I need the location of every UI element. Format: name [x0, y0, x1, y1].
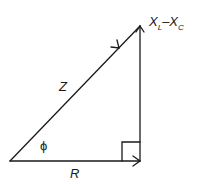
impedance-label: Z — [59, 80, 67, 93]
right-angle-marker — [122, 142, 140, 161]
impedance-arrowhead — [111, 40, 119, 48]
reactance-label: XL–XC — [149, 15, 184, 28]
resistance-label: R — [70, 167, 79, 180]
phase-angle-label: ϕ — [40, 139, 47, 152]
impedance-vector — [10, 26, 140, 161]
